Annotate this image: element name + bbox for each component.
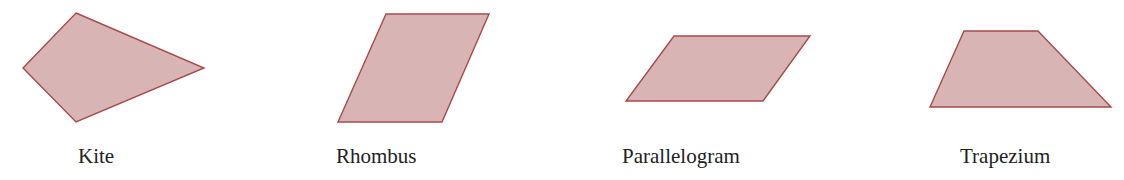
rhombus-shape bbox=[338, 14, 489, 122]
rhombus-label: Rhombus bbox=[336, 143, 417, 169]
trapezium-label: Trapezium bbox=[960, 143, 1050, 169]
kite-shape bbox=[23, 13, 204, 122]
trapezium-shape bbox=[930, 31, 1111, 107]
kite-label: Kite bbox=[78, 143, 114, 169]
parallelogram-shape bbox=[626, 36, 810, 101]
parallelogram-label: Parallelogram bbox=[622, 143, 740, 169]
quadrilaterals-figure bbox=[0, 0, 1124, 180]
